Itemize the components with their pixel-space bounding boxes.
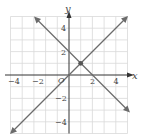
coordinate-graph: y x O −4 −2 2 4 4 2 −2 −4 xyxy=(0,0,142,138)
y-tick-label: −4 xyxy=(55,118,67,127)
x-tick-label: 2 xyxy=(90,77,95,86)
y-tick-label: −2 xyxy=(55,94,67,103)
x-tick-label: −4 xyxy=(8,77,20,86)
y-axis xyxy=(67,11,72,134)
y-tick-label: 4 xyxy=(61,24,66,33)
x-tick-label: 4 xyxy=(114,77,119,86)
origin-label: O xyxy=(58,76,65,85)
x-tick-label: −2 xyxy=(32,77,44,86)
x-axis-label: x xyxy=(132,70,138,81)
intersection-point xyxy=(78,61,83,66)
y-axis-label: y xyxy=(64,3,71,14)
y-tick-label: 2 xyxy=(61,48,66,57)
